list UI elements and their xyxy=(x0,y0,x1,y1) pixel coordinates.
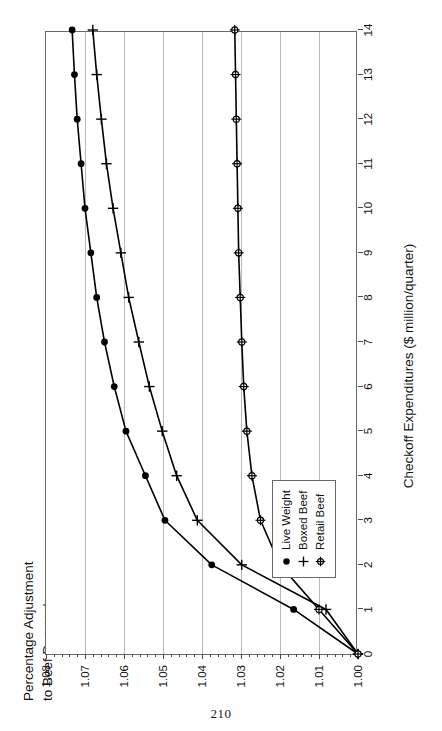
plot-area: 1.001.011.021.031.041.051.061.071.08 012… xyxy=(45,31,357,655)
marker-filled-circle xyxy=(162,516,169,523)
legend-marker-plus-icon xyxy=(296,553,311,570)
y-tick xyxy=(85,654,86,659)
y-tick xyxy=(319,654,320,659)
marker-filled-circle xyxy=(283,558,289,564)
marker-plus xyxy=(144,381,154,391)
marker-circle-spoked xyxy=(256,515,266,525)
y-tick-label: 1.06 xyxy=(118,665,130,687)
y-tick-label: 1.04 xyxy=(196,665,208,687)
marker-plus xyxy=(101,158,111,168)
marker-plus xyxy=(92,69,102,79)
chart-figure: Percentage Adjustment to Beef Demand Che… xyxy=(11,21,431,711)
marker-plus xyxy=(299,556,309,566)
x-tick-label: 5 xyxy=(362,427,374,433)
y-tick-label: 1.00 xyxy=(352,665,364,687)
marker-filled-circle xyxy=(111,383,118,390)
marker-circle-spoked xyxy=(242,426,252,436)
marker-filled-circle xyxy=(101,338,108,345)
marker-plus xyxy=(123,292,133,302)
x-tick-label: 14 xyxy=(362,23,374,36)
chart-legend: Live WeightBoxed BeefRetail Beef xyxy=(272,480,336,578)
marker-plus xyxy=(96,113,106,123)
x-tick-label: 10 xyxy=(362,201,374,214)
y-tick xyxy=(46,654,47,659)
marker-circle-spoked xyxy=(239,381,249,391)
marker-plus xyxy=(116,247,126,257)
marker-filled-circle xyxy=(71,71,78,78)
y-tick-label: 1.03 xyxy=(235,665,247,687)
marker-filled-circle xyxy=(93,294,100,301)
marker-filled-circle xyxy=(290,606,297,613)
marker-filled-circle xyxy=(123,427,130,434)
x-tick-label: 0 xyxy=(362,650,374,656)
marker-filled-circle xyxy=(69,26,76,33)
legend-marker-filled-circle-icon xyxy=(279,553,294,570)
page-number: 210 xyxy=(0,706,442,722)
legend-label: Boxed Beef xyxy=(296,490,311,549)
legend-label: Live Weight xyxy=(279,490,294,550)
y-tick xyxy=(163,654,164,659)
y-tick-label: 1.02 xyxy=(274,665,286,687)
y-tick xyxy=(202,654,203,659)
marker-filled-circle xyxy=(82,204,89,211)
x-tick-label: 12 xyxy=(362,112,374,125)
y-tick xyxy=(124,654,125,659)
marker-plus xyxy=(157,425,167,435)
marker-plus xyxy=(108,203,118,213)
x-tick-label: 4 xyxy=(362,472,374,478)
rotated-figure-wrapper: Percentage Adjustment to Beef Demand Che… xyxy=(11,21,431,711)
marker-circle-spoked xyxy=(247,470,257,480)
x-tick-label: 9 xyxy=(362,249,374,255)
marker-circle-spoked xyxy=(235,292,245,302)
legend-item: Live Weight xyxy=(278,490,295,570)
marker-circle-spoked xyxy=(232,158,242,168)
marker-plus xyxy=(171,470,181,480)
marker-filled-circle xyxy=(78,160,85,167)
y-tick-label: 1.01 xyxy=(313,665,325,687)
y-tick xyxy=(280,654,281,659)
legend-label: Retail Beef xyxy=(313,493,328,549)
marker-filled-circle xyxy=(87,249,94,256)
y-tick-label: 1.07 xyxy=(79,665,91,687)
legend-marker-circle-spoked-icon xyxy=(313,553,328,570)
marker-circle-spoked xyxy=(231,114,241,124)
y-tick xyxy=(241,654,242,659)
legend-item: Boxed Beef xyxy=(295,490,312,570)
x-tick-label: 1 xyxy=(362,606,374,612)
legend-item: Retail Beef xyxy=(312,490,329,570)
marker-plus xyxy=(134,336,144,346)
y-tick-label: 1.05 xyxy=(157,665,169,687)
x-tick-label: 2 xyxy=(362,561,374,567)
x-tick-label: 7 xyxy=(362,338,374,344)
marker-circle-spoked xyxy=(316,556,326,566)
x-axis-title: Checkoff Expenditures ($ million/quarter… xyxy=(401,21,416,711)
marker-circle-spoked xyxy=(234,247,244,257)
x-tick-label: 13 xyxy=(362,68,374,81)
x-tick-label: 3 xyxy=(362,517,374,523)
marker-circle-spoked xyxy=(230,25,240,35)
marker-plus xyxy=(88,24,98,34)
x-tick-label: 8 xyxy=(362,294,374,300)
marker-circle-spoked xyxy=(231,69,241,79)
marker-filled-circle xyxy=(74,115,81,122)
x-tick-label: 6 xyxy=(362,383,374,389)
marker-circle-spoked xyxy=(237,337,247,347)
y-tick-label: 1.08 xyxy=(40,665,52,687)
marker-filled-circle xyxy=(142,472,149,479)
x-tick-label: 11 xyxy=(362,157,374,169)
marker-circle-spoked xyxy=(233,203,243,213)
